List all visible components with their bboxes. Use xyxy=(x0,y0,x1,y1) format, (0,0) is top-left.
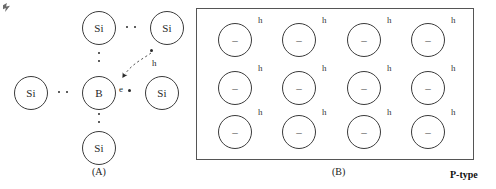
negative-charge-label: – xyxy=(361,83,367,94)
hole-label: h xyxy=(387,16,392,25)
negative-charge-label: – xyxy=(296,35,302,46)
bond-dot xyxy=(98,52,100,54)
atom-boron-center: B xyxy=(82,76,116,110)
acceptor-ion: – xyxy=(411,71,445,105)
atom-si-top-right: Si xyxy=(150,11,184,45)
atom-si-right: Si xyxy=(145,76,179,110)
negative-charge-label: – xyxy=(425,83,431,94)
hole-label: h xyxy=(322,16,327,25)
bond-dots-lower xyxy=(98,113,100,123)
bond-dots-left xyxy=(58,91,68,93)
bond-dot xyxy=(126,26,128,28)
negative-charge-label: – xyxy=(425,35,431,46)
hole-label: h xyxy=(258,64,263,73)
acceptor-ion: – xyxy=(347,23,381,57)
bond-dots-top xyxy=(126,26,136,28)
hole-label: h xyxy=(322,108,327,117)
electron-dot xyxy=(128,89,131,92)
hole-label: h xyxy=(258,108,263,117)
bond-dot xyxy=(98,60,100,62)
hole-label: h xyxy=(387,64,392,73)
negative-charge-label: – xyxy=(232,35,238,46)
atom-label: Si xyxy=(94,23,104,34)
acceptor-ion: – xyxy=(282,115,316,149)
negative-charge-label: – xyxy=(296,127,302,138)
panel-a-caption: (A) xyxy=(92,166,106,177)
acceptor-ion: – xyxy=(347,115,381,149)
panel-b-caption: (B) xyxy=(332,166,345,177)
atom-si-bottom: Si xyxy=(82,131,116,165)
hole-label: h xyxy=(451,16,456,25)
acceptor-ion: – xyxy=(411,23,445,57)
atom-label: Si xyxy=(26,88,36,99)
acceptor-ion: – xyxy=(411,115,445,149)
panel-b: – h – h – h – h – h – h – h – h xyxy=(196,0,496,189)
bond-dot xyxy=(66,91,68,93)
negative-charge-label: – xyxy=(232,83,238,94)
negative-charge-label: – xyxy=(425,127,431,138)
hole-label: h xyxy=(152,59,157,68)
hole-label: h xyxy=(451,64,456,73)
negative-charge-label: – xyxy=(361,127,367,138)
atom-label: Si xyxy=(94,143,104,154)
atom-si-left: Si xyxy=(14,76,48,110)
negative-charge-label: – xyxy=(232,127,238,138)
hole-label: h xyxy=(258,16,263,25)
hole-label: h xyxy=(387,108,392,117)
hole-dot xyxy=(150,49,153,52)
bond-dot xyxy=(58,91,60,93)
acceptor-ion: – xyxy=(347,71,381,105)
negative-charge-label: – xyxy=(296,83,302,94)
figure-root: Si Si Si B Si Si xyxy=(0,0,496,189)
hole-label: h xyxy=(322,64,327,73)
atom-label: Si xyxy=(162,23,172,34)
atom-si-top: Si xyxy=(82,11,116,45)
acceptor-ion: – xyxy=(282,71,316,105)
hole-label: h xyxy=(451,108,456,117)
negative-charge-label: – xyxy=(361,35,367,46)
bond-dot xyxy=(134,26,136,28)
bond-dots-upper xyxy=(98,52,100,62)
acceptor-ion: – xyxy=(218,71,252,105)
bond-dot xyxy=(98,121,100,123)
p-type-label: P-type xyxy=(450,169,478,180)
bond-dot xyxy=(98,113,100,115)
atom-label: B xyxy=(95,88,103,99)
acceptor-ion: – xyxy=(218,115,252,149)
acceptor-ion: – xyxy=(282,23,316,57)
electron-label: e xyxy=(119,85,123,94)
acceptor-ion: – xyxy=(218,23,252,57)
panel-a: Si Si Si B Si Si xyxy=(0,0,196,189)
atom-label: Si xyxy=(157,88,167,99)
